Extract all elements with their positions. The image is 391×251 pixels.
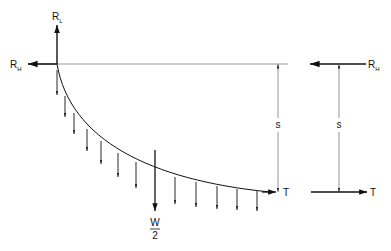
distributed-loads — [57, 70, 257, 211]
t-right-label: T — [370, 187, 376, 198]
cable-free-body-diagram: RL RH W 2 T s RH s T — [0, 0, 391, 251]
cable-curve — [57, 64, 270, 192]
rl-label: RL — [52, 11, 63, 24]
s-right-label: s — [337, 119, 342, 130]
s-left-label: s — [276, 119, 281, 130]
weight-denominator: 2 — [152, 230, 158, 241]
weight-numerator: W — [150, 217, 160, 228]
rh-left-label: RH — [10, 59, 22, 72]
t-left-label: T — [283, 187, 289, 198]
rh-right-label: RH — [368, 59, 380, 72]
